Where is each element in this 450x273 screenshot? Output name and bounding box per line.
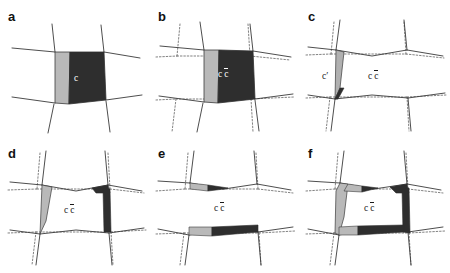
region-label-c: c [74, 74, 78, 84]
panel-a: a c [0, 0, 150, 136]
region-label-c-cbar: cc [214, 204, 224, 214]
label-cbar-glyph: c [70, 206, 74, 216]
label-prime-glyph: ′ [326, 71, 328, 81]
panel-label-f: f [308, 147, 312, 160]
label-cbar-glyph: c [220, 204, 224, 214]
panel-e: e cc [150, 137, 300, 273]
panel-label-d: d [8, 147, 16, 160]
region-label-c-cbar: cc [364, 204, 374, 214]
region-label-c-prime: c′ [322, 72, 328, 82]
panel-e-graphic [150, 137, 300, 273]
label-c-glyph: c [214, 203, 218, 213]
region-label-c-cbar: cc [368, 72, 378, 82]
panel-label-a: a [8, 10, 15, 23]
region-label-c-cbar: cc [64, 206, 74, 216]
label-cbar-glyph: c [374, 72, 378, 82]
label-c-glyph: c [64, 205, 68, 215]
panel-f-graphic [300, 137, 450, 273]
label-c-glyph: c [368, 71, 372, 81]
label-c-glyph: c [364, 203, 368, 213]
panel-label-e: e [158, 147, 165, 160]
label-cbar-glyph: c [224, 70, 228, 80]
label-cbar-glyph: c [370, 204, 374, 214]
figure-container: a c [0, 0, 450, 273]
panel-c-graphic [300, 0, 450, 136]
panel-f: f cc [300, 137, 450, 273]
panel-d: d cc [0, 137, 150, 273]
panel-label-b: b [158, 10, 166, 23]
panel-c: c c′ cc [300, 0, 450, 136]
label-c-glyph: c [74, 74, 78, 84]
panel-d-graphic [0, 137, 150, 273]
region-label-c-cbar: cc [218, 70, 228, 80]
panel-a-graphic [0, 0, 150, 136]
label-c-glyph: c [218, 69, 222, 79]
panel-label-c: c [308, 10, 315, 23]
panel-b: b cc [150, 0, 300, 136]
